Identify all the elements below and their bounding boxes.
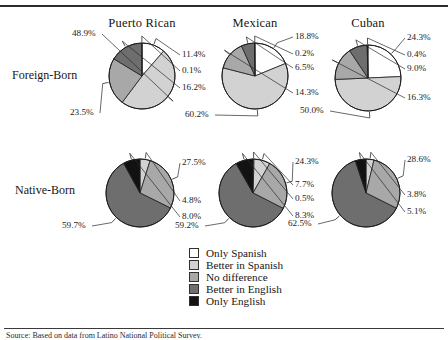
legend-item-only-english: Only English — [189, 295, 283, 307]
pie-value-label: 16.2% — [182, 83, 206, 92]
pie-value-label: 27.5% — [182, 158, 206, 167]
pie-chart-native-born-mexican — [205, 152, 293, 227]
legend-swatch-no-difference — [189, 272, 199, 282]
legend-label-better-in-english: Better in English — [206, 283, 282, 295]
pie-value-label: 18.8% — [295, 32, 319, 41]
pie-value-label: 14.3% — [295, 88, 319, 97]
pie-value-label: 23.5% — [70, 108, 94, 117]
pie-chart-native-born-puerto-rican — [92, 152, 180, 227]
leader-line — [370, 152, 371, 158]
leader-connector — [92, 223, 112, 226]
leader-connector — [277, 37, 293, 43]
leader-line — [172, 177, 178, 179]
legend-item-only-spanish: Only Spanish — [189, 247, 283, 259]
bottom-divider-rule — [4, 328, 444, 329]
pie-value-label: 5.1% — [407, 207, 426, 216]
leader-line — [225, 218, 229, 222]
pie-value-label: 6.5% — [295, 63, 314, 72]
leader-connector — [100, 84, 103, 113]
pie-value-label: 0.5% — [295, 194, 314, 203]
pie-value-label: 50.0% — [300, 106, 324, 115]
legend: Only Spanish Better in Spanish No differ… — [189, 247, 283, 307]
legend-label-only-english: Only English — [206, 295, 265, 307]
leader-line — [335, 216, 340, 220]
legend-item-no-difference: No difference — [189, 271, 283, 283]
leader-line — [112, 218, 116, 222]
leader-connector — [318, 220, 335, 224]
pie-value-label: 24.3% — [295, 157, 319, 166]
pie-value-label: 16.3% — [407, 93, 431, 102]
pie-value-label: 3.8% — [407, 190, 426, 199]
leader-connector — [178, 163, 180, 177]
legend-swatch-only-english — [189, 296, 199, 306]
leader-line — [145, 152, 146, 158]
legend-label-no-difference: No difference — [206, 271, 268, 283]
legend-swatch-only-spanish — [189, 248, 199, 258]
pie-value-label: 9.0% — [407, 64, 426, 73]
legend-swatch-better-in-english — [189, 284, 199, 294]
figure-canvas: Puerto Rican Mexican Cuban Foreign-Born … — [0, 0, 448, 340]
leader-connector — [403, 160, 405, 176]
pie-value-label: 4.8% — [182, 196, 201, 205]
leader-connector — [205, 223, 225, 226]
leader-connector — [396, 38, 405, 49]
pie-value-label: 59.7% — [62, 221, 86, 230]
leader-line — [154, 39, 156, 45]
pie-value-label: 28.6% — [407, 155, 431, 164]
pie-value-label: 0.4% — [407, 50, 426, 59]
leader-line — [398, 176, 403, 179]
pie-value-label: 0.2% — [295, 49, 314, 58]
pie-value-label: 0.1% — [182, 66, 201, 75]
leader-line — [103, 82, 109, 83]
pie-value-label: 24.3% — [407, 33, 431, 42]
pie-value-label: 7.7% — [295, 180, 314, 189]
leader-line — [262, 154, 264, 160]
legend-label-better-in-spanish: Better in Spanish — [206, 259, 283, 271]
leader-connector — [292, 162, 293, 181]
legend-item-better-in-english: Better in English — [189, 283, 283, 295]
pie-chart-foreign-born-cuban — [330, 38, 405, 118]
legend-label-only-spanish: Only Spanish — [206, 247, 267, 259]
pie-value-label: 11.4% — [182, 50, 205, 59]
pie-value-label: 48.9% — [72, 29, 96, 38]
legend-swatch-better-in-spanish — [189, 260, 199, 270]
pie-chart-foreign-born-puerto-rican — [100, 34, 180, 113]
pie-value-label: 62.5% — [288, 219, 312, 228]
legend-item-better-in-spanish: Better in Spanish — [189, 259, 283, 271]
pie-value-label: 60.2% — [185, 110, 209, 119]
leader-connector — [330, 111, 370, 118]
source-caption: Source: Based on data from Latino Nation… — [6, 331, 436, 339]
leader-connector — [215, 115, 258, 116]
pie-slice — [335, 77, 401, 111]
pie-chart-native-born-cuban — [318, 152, 405, 227]
pie-value-label: 59.2% — [175, 221, 199, 230]
pie-chart-foreign-born-mexican — [215, 36, 293, 116]
